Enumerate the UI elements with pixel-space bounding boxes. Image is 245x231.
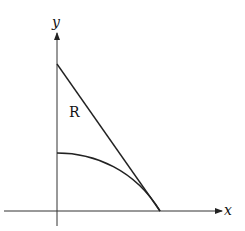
curve (57, 153, 160, 211)
diagram-canvas: y x R (0, 0, 245, 231)
y-axis-label: y (51, 14, 61, 30)
x-axis-label: x (224, 202, 232, 218)
region-label: R (69, 104, 80, 120)
straight-line (57, 64, 160, 211)
